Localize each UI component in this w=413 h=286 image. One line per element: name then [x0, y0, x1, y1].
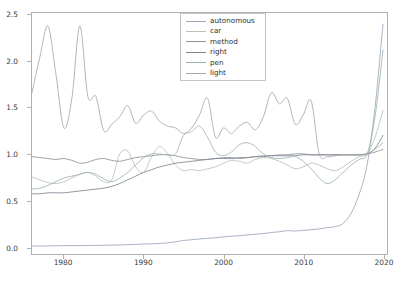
- y-tick-label: 1.0: [0, 150, 18, 159]
- legend-label-text: pen: [210, 58, 224, 68]
- legend-label-text: method: [210, 37, 238, 47]
- x-tick-label: 2010: [274, 258, 334, 267]
- legend-item-autonomous[interactable]: autonomous: [184, 16, 262, 26]
- legend-color-swatch-light: [186, 73, 206, 74]
- y-tick-label: 1.5: [0, 103, 18, 112]
- legend-color-swatch-method: [186, 41, 206, 42]
- chart-legend: autonomouscarmethodrightpenlight: [180, 13, 266, 81]
- x-tick-label: 2020: [354, 258, 413, 267]
- legend-color-swatch-autonomous: [186, 21, 206, 22]
- y-tick-label: 0.5: [0, 196, 18, 205]
- x-tick-label: 2000: [194, 258, 254, 267]
- legend-item-pen[interactable]: pen: [184, 58, 262, 68]
- x-tick-label: 1980: [33, 258, 93, 267]
- y-tick-label: 2.0: [0, 56, 18, 65]
- line-chart-figure: 0.00.51.01.52.02.5 19801990200020102020 …: [0, 0, 413, 286]
- x-tick-mark: [143, 255, 144, 259]
- legend-item-light[interactable]: light: [184, 68, 262, 78]
- x-tick-mark: [224, 255, 225, 259]
- legend-color-swatch-car: [186, 31, 206, 32]
- x-tick-mark: [304, 255, 305, 259]
- x-tick-mark: [63, 255, 64, 259]
- legend-item-method[interactable]: method: [184, 37, 262, 47]
- legend-label-text: light: [210, 68, 226, 78]
- y-tick-label: 2.5: [0, 9, 18, 18]
- x-tick-label: 1990: [113, 258, 173, 267]
- y-tick-label: 0.0: [0, 243, 18, 252]
- legend-item-car[interactable]: car: [184, 26, 262, 36]
- legend-label-text: car: [210, 26, 221, 36]
- legend-label-text: autonomous: [210, 16, 255, 26]
- legend-label-text: right: [210, 47, 227, 57]
- series-line-right: [32, 135, 383, 193]
- legend-color-swatch-right: [186, 52, 206, 53]
- legend-item-right[interactable]: right: [184, 47, 262, 57]
- x-tick-mark: [384, 255, 385, 259]
- legend-color-swatch-pen: [186, 62, 206, 63]
